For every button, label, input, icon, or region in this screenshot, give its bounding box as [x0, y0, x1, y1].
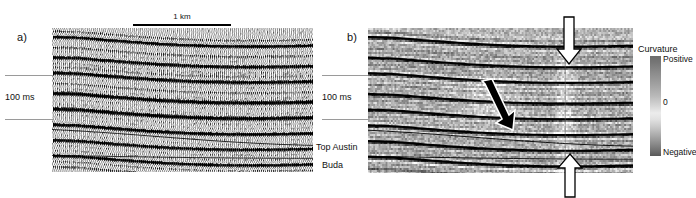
- white-arrow-bottom-icon: [557, 153, 583, 198]
- time-tick-b-lower: [322, 119, 368, 120]
- horizon-label-top-austin: Top Austin: [316, 142, 358, 152]
- horizon-label-buda: Buda: [322, 160, 343, 170]
- black-arrow-middle-icon: [476, 78, 520, 134]
- time-tick-a-lower: [5, 119, 53, 120]
- scalebar-line: [133, 24, 231, 26]
- colorbar-title: Curvature: [638, 44, 678, 54]
- time-interval-label-a: 100 ms: [5, 92, 35, 102]
- colorbar-min-label: Negative: [663, 147, 696, 157]
- time-interval-label-b: 100 ms: [322, 92, 352, 102]
- panel-a-label: a): [17, 31, 27, 43]
- time-tick-a-upper: [5, 75, 53, 76]
- white-arrow-top-icon: [556, 16, 582, 66]
- seismic-wiggle-canvas: [52, 28, 313, 172]
- scalebar-label: 1 km: [133, 12, 231, 21]
- colorbar-mid-label: 0: [663, 97, 668, 107]
- colorbar-max-label: Positive: [663, 54, 693, 64]
- time-tick-b-upper: [322, 75, 368, 76]
- colorbar-gradient: [650, 56, 661, 156]
- panel-b-label: b): [347, 31, 357, 43]
- seismic-panel-a: [52, 28, 313, 172]
- figure-seismic-comparison: 1 km a) 100 ms Top Austin Buda b) 100 ms: [0, 0, 696, 198]
